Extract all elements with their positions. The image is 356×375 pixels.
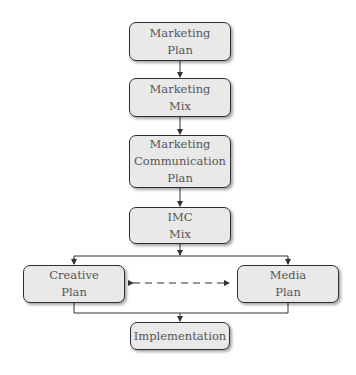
node-creative-plan: Creative Plan [23, 265, 125, 303]
merge-line [74, 303, 288, 313]
node-label-line: Mix [169, 98, 191, 115]
node-implementation: Implementation [130, 322, 230, 350]
node-marketing-communication-plan: Marketing Communication Plan [129, 135, 231, 188]
node-label-line: Marketing [150, 81, 211, 98]
node-marketing-mix: Marketing Mix [129, 78, 231, 117]
node-label-line: Mix [169, 226, 191, 243]
node-imc-mix: IMC Mix [129, 207, 231, 244]
node-label-line: Media [270, 267, 306, 284]
node-label-line: IMC [167, 209, 192, 226]
split-line [74, 256, 288, 264]
node-marketing-plan: Marketing Plan [129, 22, 231, 61]
node-label-line: Plan [167, 42, 193, 59]
node-label-line: Creative [49, 267, 99, 284]
node-label-line: Communication [134, 153, 226, 170]
node-label-line: Implementation [134, 328, 227, 345]
node-media-plan: Media Plan [237, 265, 339, 303]
node-label-line: Marketing [150, 25, 211, 42]
node-label-line: Marketing [150, 136, 211, 153]
node-label-line: Plan [167, 170, 193, 187]
node-label-line: Plan [275, 284, 301, 301]
node-label-line: Plan [61, 284, 87, 301]
